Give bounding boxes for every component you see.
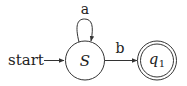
loop-transition-a bbox=[77, 19, 92, 42]
state-q1: q 1 bbox=[138, 41, 177, 80]
state-S: S bbox=[66, 41, 105, 80]
state-S-label: S bbox=[80, 52, 90, 70]
transition-label-a: a bbox=[81, 1, 89, 17]
start-label: start bbox=[8, 51, 44, 69]
automaton-diagram: start S a b q 1 bbox=[0, 0, 187, 86]
state-q1-label: q bbox=[149, 50, 159, 68]
transition-label-b: b bbox=[116, 40, 125, 56]
state-q1-subscript: 1 bbox=[159, 58, 165, 69]
